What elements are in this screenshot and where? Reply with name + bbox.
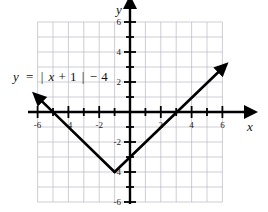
y-tick-label: 4 [117,47,122,57]
equation-equals: = [26,69,33,84]
y-tick-label: 6 [117,17,122,27]
equation-inner-const: 1 [70,69,77,84]
x-tick-label: 6 [220,120,225,130]
graph-figure: -6 -4 -2 2 4 6 6 4 2 -2 -4 -6 x y [0,0,268,212]
coordinate-plane-graph: -6 -4 -2 2 4 6 6 4 2 -2 -4 -6 x y [0,0,268,212]
x-tick-label: 4 [189,120,194,130]
y-axis-label: y [114,2,122,17]
y-tick-label: -6 [114,197,122,207]
equation-inner-var: x [47,69,54,84]
equation-bar-close: | [82,69,85,84]
x-tick-label: -2 [95,120,103,130]
svg-text:y = |: y = | x + 1 | − 4 [11,69,108,84]
x-tick-label: -6 [34,120,42,130]
x-axis-label: x [246,119,253,134]
y-tick-label: -2 [114,137,122,147]
equation-inner-plus: + [59,69,66,84]
equation-minus: − [90,69,97,84]
equation-outer-const: 4 [101,69,108,84]
y-tick-label: 2 [117,77,122,87]
equation-lhs: y [11,69,19,84]
equation-bar-open: | [41,69,44,84]
axes [28,7,246,204]
equation-label: y = | x + 1 | − 4 [11,69,108,84]
